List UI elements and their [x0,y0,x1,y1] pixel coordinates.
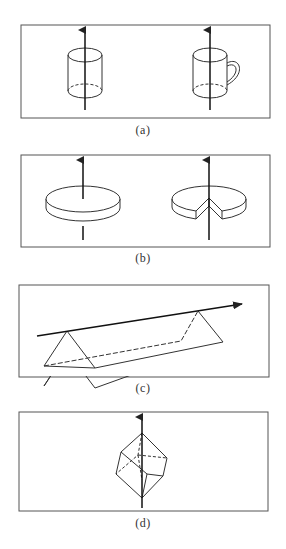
panel-b-label: (b) [0,251,286,266]
panel-c-label: (c) [0,381,286,396]
prism-overlay [0,0,286,549]
panel-d-label: (d) [0,516,286,531]
panel-a-label: (a) [0,123,286,138]
